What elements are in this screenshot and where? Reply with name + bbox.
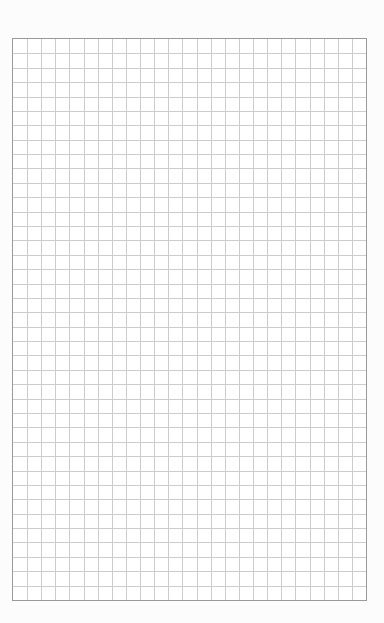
grid-lines xyxy=(13,39,366,600)
grid-sheet xyxy=(12,38,367,601)
graph-paper-page xyxy=(0,0,384,623)
